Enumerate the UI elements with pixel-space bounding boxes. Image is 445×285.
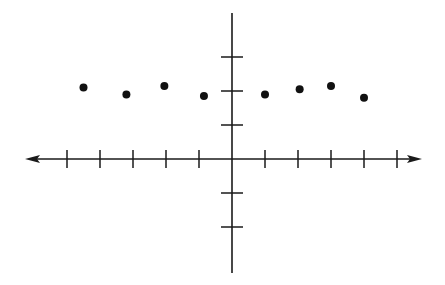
data-point xyxy=(122,90,130,98)
scatter-chart xyxy=(0,0,445,285)
data-points xyxy=(80,82,369,102)
axes xyxy=(25,13,422,273)
data-point xyxy=(296,85,304,93)
data-point xyxy=(327,82,335,90)
data-point xyxy=(80,84,88,92)
data-point xyxy=(200,92,208,100)
data-point xyxy=(160,82,168,90)
data-point xyxy=(360,94,368,102)
data-point xyxy=(261,90,269,98)
